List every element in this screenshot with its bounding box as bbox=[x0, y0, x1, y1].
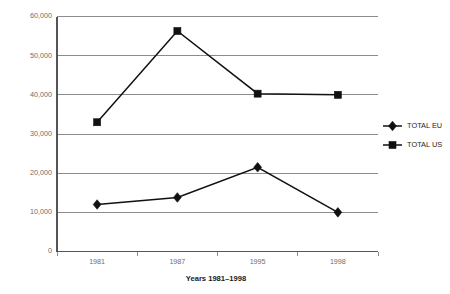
square-marker-icon bbox=[94, 119, 101, 126]
legend-item[interactable]: TOTAL US bbox=[383, 140, 442, 149]
legend-item[interactable]: TOTAL EU bbox=[383, 121, 442, 131]
y-axis-tick-label: 40,000 bbox=[30, 90, 52, 99]
y-axis-tick-label: 10,000 bbox=[30, 207, 52, 216]
x-axis-tick-label: 1995 bbox=[250, 257, 266, 266]
legend-item-label: TOTAL US bbox=[407, 140, 442, 149]
square-marker-icon bbox=[334, 91, 341, 98]
y-axis-tick-label: 30,000 bbox=[30, 129, 52, 138]
x-axis-title: Years 1981–1998 bbox=[186, 274, 246, 283]
x-axis-tick-label: 1998 bbox=[330, 257, 346, 266]
square-marker-icon bbox=[389, 142, 396, 149]
square-marker-icon bbox=[254, 90, 261, 97]
line-chart: 010,00020,00030,00040,00050,00060,000 19… bbox=[0, 0, 450, 294]
legend-item-label: TOTAL EU bbox=[407, 121, 442, 130]
square-marker-icon bbox=[174, 27, 181, 34]
y-axis-tick-label: 0 bbox=[48, 246, 52, 255]
y-axis-tick-label: 20,000 bbox=[30, 168, 52, 177]
chart-canvas: 010,00020,00030,00040,00050,00060,000 19… bbox=[0, 0, 450, 294]
y-axis-tick-label: 60,000 bbox=[30, 11, 52, 20]
x-axis-tick-label: 1981 bbox=[89, 257, 105, 266]
chart-background bbox=[0, 0, 450, 294]
y-axis-tick-label: 50,000 bbox=[30, 51, 52, 60]
x-axis-tick-label: 1987 bbox=[169, 257, 185, 266]
